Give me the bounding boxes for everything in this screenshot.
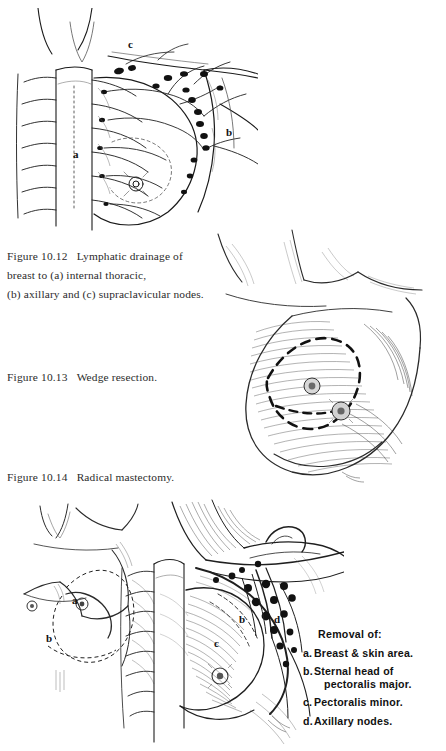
legend-item-b-line-1: Sternal head of <box>314 665 394 677</box>
figure-10-12-caption-line-3: (b) axillary and (c) supraclavicular nod… <box>7 288 204 300</box>
figure-10-14-caption: Figure 10.14Radical mastectomy. <box>7 468 174 487</box>
figure-10-13-caption-line-1: Wedge resection. <box>77 371 158 383</box>
figure-10-12-caption-line-2: breast to (a) internal thoracic, <box>7 269 146 281</box>
legend-item-b-key: b. <box>303 665 314 690</box>
figure-10-14-label-c: c <box>214 637 219 649</box>
figure-10-12-number: Figure 10.12 <box>7 250 68 262</box>
removal-legend: Removal of: a. Breast & skin area. b. St… <box>303 628 446 733</box>
figure-10-14-caption-line-1: Radical mastectomy. <box>77 471 175 483</box>
legend-item-d: d. Axillary nodes. <box>303 715 446 727</box>
legend-item-c: c. Pectoralis minor. <box>303 696 446 708</box>
figure-10-13-caption: Figure 10.13Wedge resection. <box>7 368 157 387</box>
figure-10-14-inset-label-b: b <box>46 632 52 644</box>
figure-10-12-illustration <box>8 8 258 240</box>
removal-legend-title: Removal of: <box>318 628 446 640</box>
legend-item-a-key: a. <box>303 647 314 659</box>
legend-item-c-key: c. <box>303 696 314 708</box>
figure-10-14-illustration <box>4 498 344 751</box>
figure-10-14-label-b: b <box>239 613 245 625</box>
figure-10-12-caption-line-1: Lymphatic drainage of <box>77 250 183 262</box>
figure-10-13-number: Figure 10.13 <box>7 371 68 383</box>
figure-10-12-caption: Figure 10.12Lymphatic drainage of breast… <box>7 247 204 304</box>
legend-item-d-key: d. <box>303 715 314 727</box>
figure-10-14-number: Figure 10.14 <box>7 471 68 483</box>
legend-item-b-line-2: pectoralis major. <box>324 678 446 690</box>
figure-10-12-label-a: a <box>73 148 79 160</box>
legend-item-b: b. Sternal head of pectoralis major. <box>303 665 446 690</box>
legend-item-c-text: Pectoralis minor. <box>314 696 446 708</box>
legend-item-a-text: Breast & skin area. <box>314 647 446 659</box>
textbook-page: a b c Figure 10.12Lymphatic drainage of … <box>0 0 446 751</box>
figure-10-12-label-b: b <box>226 126 232 138</box>
legend-item-a: a. Breast & skin area. <box>303 647 446 659</box>
figure-10-14-inset-label-a: a <box>72 594 78 606</box>
legend-item-b-text: Sternal head of pectoralis major. <box>314 665 446 690</box>
figure-10-12-label-c: c <box>128 38 133 50</box>
figure-10-14-label-d: d <box>274 613 280 625</box>
legend-item-d-text: Axillary nodes. <box>314 715 446 727</box>
figure-10-13-illustration <box>196 228 446 490</box>
